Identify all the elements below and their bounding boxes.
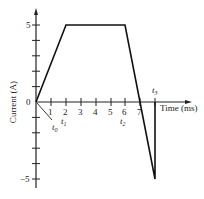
x-tick-3: 3 — [78, 107, 83, 117]
t1-label: t1 — [61, 116, 67, 127]
x-tick-6: 6 — [122, 107, 127, 117]
x-tick-2: 2 — [63, 107, 68, 117]
y-tick-5: 5 — [26, 20, 31, 30]
y-axis-arrow-icon — [34, 8, 38, 15]
y-axis-label: Current (A) — [8, 81, 18, 123]
t2-label: t2 — [120, 116, 126, 127]
t0-label: t0 — [52, 122, 58, 133]
x-tick-1: 1 — [48, 107, 53, 117]
x-tick-5: 5 — [108, 107, 113, 117]
t3-label: t3 — [152, 85, 158, 96]
y-tick-0: 0 — [26, 97, 31, 107]
y-tick-neg5: −5 — [20, 174, 30, 184]
current-vs-time-chart: 5 0 −5 1 2 3 4 5 6 7 Time (ms) Current (… — [0, 0, 204, 199]
x-tick-4: 4 — [93, 107, 98, 117]
x-axis-label: Time (ms) — [160, 103, 197, 113]
